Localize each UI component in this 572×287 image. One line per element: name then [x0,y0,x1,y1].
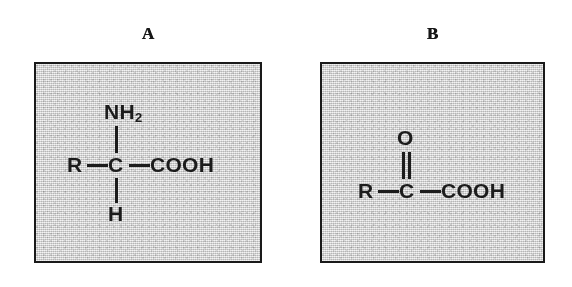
bond-center-to-oxygen-line-1 [402,152,405,179]
bond-r-to-center [378,190,399,193]
atom-label-oxygen: O [397,127,414,148]
bond-center-to-hydrogen [115,178,118,203]
figure-container: A NH2 R C COOH [0,0,572,287]
panel-a-box: NH2 R C COOH H [34,62,262,263]
bond-center-to-nh2 [115,126,118,153]
bond-center-to-cooh [420,190,441,193]
bond-r-to-center [87,164,108,167]
panel-a-group: A NH2 R C COOH [34,62,262,263]
atom-label-center-carbon: C [108,154,123,175]
atom-label-cooh: COOH [150,154,214,175]
atom-label-r-left: R [67,154,82,175]
panel-b-group: B O R C COOH [320,62,545,263]
atom-label-nh2-subscript: 2 [135,110,143,125]
atom-label-cooh: COOH [441,180,505,201]
panel-b-box: O R C COOH [320,62,545,263]
atom-label-nh2: NH2 [104,101,142,125]
panel-a-label: A [34,24,262,44]
amino-acid-structure: NH2 R C COOH H [36,64,260,261]
bond-center-to-cooh [129,164,150,167]
atom-label-r-left: R [358,180,373,201]
bond-center-to-oxygen-line-2 [408,152,411,179]
keto-acid-structure: O R C COOH [322,64,543,261]
panel-b-label: B [320,24,545,44]
atom-label-hydrogen: H [108,203,123,224]
atom-label-center-carbon: C [399,180,414,201]
atom-label-nh2-text: NH [104,100,135,123]
